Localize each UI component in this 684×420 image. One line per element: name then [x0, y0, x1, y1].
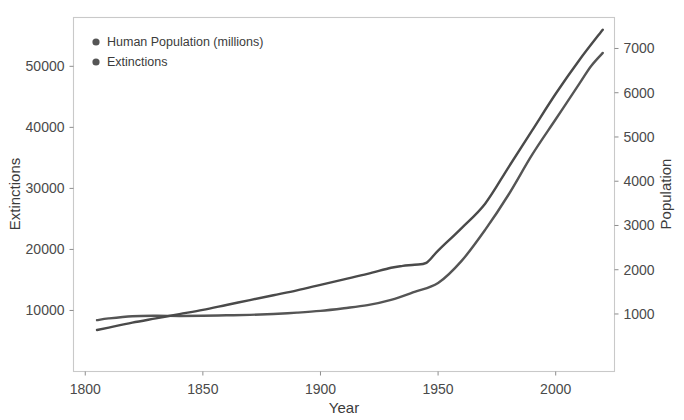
legend-label: Extinctions	[107, 55, 167, 69]
x-tick-label: 1850	[187, 381, 218, 397]
y-axis-left-title: Extinctions	[6, 158, 23, 231]
y-right-tick-label: 6000	[624, 85, 655, 101]
y-left-tick-label: 10000	[26, 302, 65, 318]
extinctions-population-chart: 18001850190019502000 1000020000300004000…	[0, 0, 684, 420]
y-right-tick-label: 3000	[624, 217, 655, 233]
x-tick-label: 2000	[540, 381, 571, 397]
y-right-tick-label: 7000	[624, 40, 655, 56]
y-right-tick-label: 2000	[624, 262, 655, 278]
chart-background	[0, 0, 684, 420]
y-right-tick-label: 4000	[624, 173, 655, 189]
legend-label: Human Population (millions)	[107, 35, 263, 49]
y-axis-right-title: Population	[657, 159, 674, 230]
chart-canvas: 18001850190019502000 1000020000300004000…	[0, 0, 684, 420]
y-left-tick-label: 50000	[26, 58, 65, 74]
x-tick-label: 1800	[70, 381, 101, 397]
legend-marker-icon	[92, 58, 99, 65]
y-left-tick-label: 40000	[26, 119, 65, 135]
x-axis-title: Year	[329, 399, 359, 416]
x-tick-label: 1900	[305, 381, 336, 397]
y-left-tick-label: 30000	[26, 180, 65, 196]
y-right-tick-label: 5000	[624, 129, 655, 145]
y-right-tick-label: 1000	[624, 306, 655, 322]
legend-marker-icon	[92, 38, 99, 45]
x-tick-label: 1950	[423, 381, 454, 397]
y-left-tick-label: 20000	[26, 241, 65, 257]
